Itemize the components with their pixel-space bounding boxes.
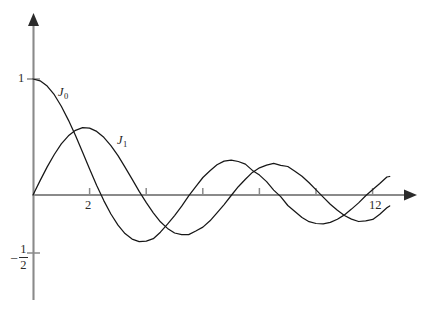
fraction-stack: 1 2 — [19, 243, 28, 271]
x-tick-label-12: 12 — [369, 199, 382, 212]
curve-label-j1-subscript: 1 — [123, 139, 127, 149]
curve-label-j1: J1 — [117, 134, 127, 147]
minus-sign: – — [11, 251, 17, 264]
x-tick-label-2: 2 — [85, 199, 91, 212]
plot-canvas — [0, 0, 428, 321]
fraction-denominator: 2 — [19, 258, 27, 272]
y-tick-label-minus-half: – 1 2 — [11, 243, 28, 271]
right-arrow-icon — [404, 190, 417, 201]
curve-label-j0-subscript: 0 — [64, 91, 68, 101]
bessel-function-plot: 1 – 1 2 2 12 J0 J1 — [0, 0, 428, 321]
curve-label-j0: J0 — [58, 86, 68, 99]
curve-j0 — [33, 79, 390, 242]
curve-label-j1-base: J — [117, 133, 123, 147]
curve-label-j0-base: J — [58, 85, 64, 99]
up-arrow-icon — [28, 13, 39, 26]
y-tick-label-1: 1 — [18, 72, 24, 85]
curve-j1 — [33, 128, 390, 235]
fraction-numerator: 1 — [19, 243, 27, 257]
